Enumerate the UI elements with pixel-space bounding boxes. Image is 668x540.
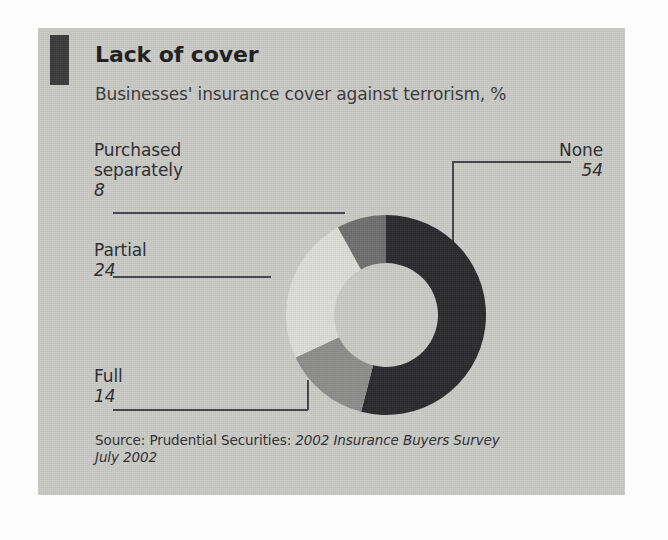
callout-label-none: None <box>493 140 603 160</box>
callout-value-partial: 24 <box>94 260 147 280</box>
donut-chart <box>283 212 489 418</box>
callout-none: None 54 <box>493 140 603 180</box>
callout-partial: Partial 24 <box>94 240 147 280</box>
callout-purchased-separately: Purchased separately 8 <box>94 140 183 200</box>
source-note: Source: Prudential Securities: 2002 Insu… <box>95 432 595 466</box>
callout-label-purchased-line1: Purchased <box>94 140 183 160</box>
chart-title: Lack of cover <box>95 42 259 67</box>
title-marker-bar <box>50 35 69 85</box>
callout-label-full: Full <box>94 366 123 386</box>
chart-panel: Lack of cover Businesses' insurance cove… <box>38 28 625 495</box>
source-date: July 2002 <box>95 449 157 465</box>
source-prefix: Source: Prudential Securities: <box>95 432 295 448</box>
callout-full: Full 14 <box>94 366 123 406</box>
page-canvas: Lack of cover Businesses' insurance cove… <box>0 0 668 540</box>
chart-subtitle: Businesses' insurance cover against terr… <box>95 84 506 104</box>
source-survey-title: 2002 Insurance Buyers Survey <box>295 432 499 448</box>
callout-value-none: 54 <box>493 160 603 180</box>
callout-value-full: 14 <box>94 386 123 406</box>
callout-value-purchased: 8 <box>94 180 183 200</box>
callout-label-partial: Partial <box>94 240 147 260</box>
leader-line-full-horizontal <box>113 409 308 411</box>
donut-chart-svg <box>283 212 489 418</box>
callout-label-purchased-line2: separately <box>94 160 183 180</box>
